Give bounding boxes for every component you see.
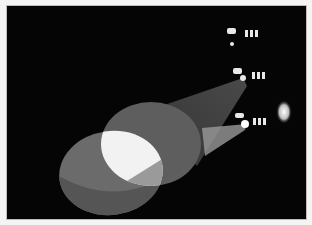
photo-spotlights: [6, 5, 307, 220]
spotlight-top: [227, 28, 258, 46]
spotlight-scene: [7, 6, 306, 219]
spotlight-middle: [233, 68, 265, 81]
flare: [276, 100, 292, 124]
beam-lower: [202, 124, 247, 156]
